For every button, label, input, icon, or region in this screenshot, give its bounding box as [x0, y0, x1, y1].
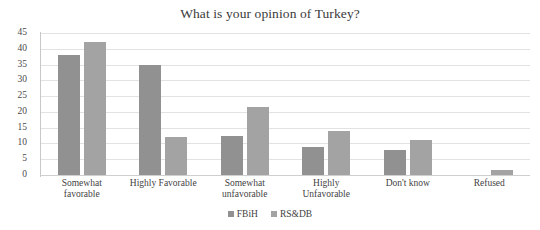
bar [221, 136, 243, 175]
y-axis-tick-label: 30 [0, 75, 27, 85]
bar [247, 107, 269, 175]
x-axis-category-label: HighlyUnfavorable [286, 178, 368, 200]
chart-legend: FBiHRS&DB [0, 209, 540, 219]
legend-swatch-icon [228, 211, 234, 217]
gridline [41, 33, 530, 34]
gridline [41, 96, 530, 97]
bar [384, 150, 406, 175]
bar [84, 42, 106, 175]
gridline [41, 159, 530, 160]
bar [165, 137, 187, 175]
x-axis-category-label: Highly Favorable [123, 178, 205, 189]
gridline [41, 143, 530, 144]
x-axis-category-label-line: Somewhat [204, 178, 286, 189]
gridline [41, 175, 530, 176]
x-axis-category-label: Don't know [367, 178, 449, 189]
x-axis-category-label-line: Unfavorable [286, 189, 368, 200]
y-axis-tick-label: 40 [0, 44, 27, 54]
gridline [41, 128, 530, 129]
x-axis-category-label-line: favorable [41, 189, 123, 200]
legend-label: FBiH [237, 209, 258, 219]
x-axis-category-label-line: Highly [286, 178, 368, 189]
y-axis-tick-label: 5 [0, 154, 27, 164]
chart-title: What is your opinion of Turkey? [0, 6, 540, 22]
x-axis-category-label-line: Don't know [367, 178, 449, 189]
bar [58, 55, 80, 175]
legend-label: RS&DB [280, 209, 312, 219]
gridline [41, 112, 530, 113]
x-axis-category-label-line: Somewhat [41, 178, 123, 189]
y-axis-tick-label: 45 [0, 28, 27, 38]
gridline [41, 49, 530, 50]
gridline [41, 80, 530, 81]
x-axis-category-label-line: Highly Favorable [123, 178, 205, 189]
plot-area: 454035302520151050 [41, 33, 530, 175]
x-axis-category-label: Somewhatunfavorable [204, 178, 286, 200]
bar [139, 65, 161, 175]
y-axis-tick-label: 0 [0, 170, 27, 180]
bar [491, 170, 513, 175]
bar [328, 131, 350, 175]
x-axis-category-label-line: Refused [449, 178, 531, 189]
y-axis-tick-label: 20 [0, 107, 27, 117]
legend-item[interactable]: RS&DB [271, 209, 312, 219]
x-axis-category-label: Somewhatfavorable [41, 178, 123, 200]
y-axis-tick-label: 25 [0, 91, 27, 101]
y-axis-tick-label: 10 [0, 138, 27, 148]
bar [302, 147, 324, 175]
y-axis-tick-label: 35 [0, 60, 27, 70]
x-axis-category-label-line: unfavorable [204, 189, 286, 200]
bar-chart: What is your opinion of Turkey? 45403530… [0, 0, 540, 230]
x-axis-category-label: Refused [449, 178, 531, 189]
gridline [41, 65, 530, 66]
bar [410, 140, 432, 175]
legend-item[interactable]: FBiH [228, 209, 258, 219]
legend-swatch-icon [271, 211, 277, 217]
y-axis-tick-label: 15 [0, 123, 27, 133]
